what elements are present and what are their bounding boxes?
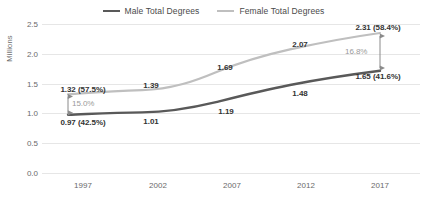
- series-container: [0, 0, 427, 218]
- point-label-male-2007: 1.19: [218, 107, 233, 116]
- gap-label-1997: 15.0%: [72, 99, 94, 108]
- point-label-male-2017: 1.65 (41.6%): [355, 72, 400, 81]
- point-label-female-2007: 1.69: [217, 63, 232, 72]
- line-chart: Male Total Degrees Female Total Degrees …: [0, 0, 427, 218]
- point-label-female-2017: 2.31 (58.4%): [355, 23, 400, 32]
- point-label-female-2012: 2.07: [292, 40, 307, 49]
- point-label-male-2002: 1.01: [143, 117, 158, 126]
- point-label-female-1997: 1.32 (57.5%): [60, 85, 105, 94]
- point-label-male-1997: 0.97 (42.5%): [60, 118, 105, 127]
- gap-label-2017: 16.8%: [345, 47, 367, 56]
- plot-area: Millions 2.5 2.0 1.5 1.0 0.5 0.0 1997 20…: [0, 0, 427, 218]
- point-label-male-2012: 1.48: [292, 89, 307, 98]
- point-label-female-2002: 1.39: [143, 81, 158, 90]
